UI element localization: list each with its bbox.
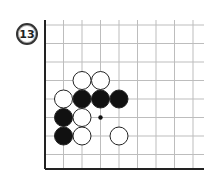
go-board[interactable] bbox=[0, 0, 219, 180]
white-stone[interactable] bbox=[92, 72, 110, 90]
white-stone[interactable] bbox=[55, 90, 73, 108]
white-stone[interactable] bbox=[73, 109, 91, 127]
point-marker-dot[interactable] bbox=[98, 115, 102, 119]
black-stone[interactable] bbox=[110, 90, 128, 108]
white-stone[interactable] bbox=[110, 127, 128, 145]
black-stone[interactable] bbox=[73, 90, 91, 108]
black-stone[interactable] bbox=[55, 127, 73, 145]
stones-layer bbox=[55, 72, 129, 146]
white-stone[interactable] bbox=[73, 72, 91, 90]
white-stone[interactable] bbox=[73, 127, 91, 145]
marks-layer bbox=[98, 115, 102, 119]
black-stone[interactable] bbox=[92, 90, 110, 108]
black-stone[interactable] bbox=[55, 109, 73, 127]
